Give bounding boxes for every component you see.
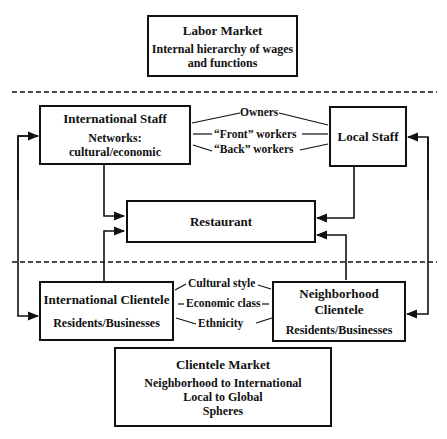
international-staff-box: International Staff Networks: cultural/e… [39,105,191,165]
labor-market-box: Labor Market Internal hierarchy of wages… [147,15,298,77]
clientele-market-title: Clientele Market [176,357,270,373]
restaurant-box: Restaurant [126,200,316,243]
international-clientele-line1: Residents/Businesses [53,316,160,330]
neighborhood-clientele-title-line1: Neighborhood [299,286,378,302]
staff-link-back-workers: “Back” workers [214,143,294,156]
neighborhood-clientele-box: Neighborhood Clientele Residents/Busines… [272,281,406,342]
international-staff-line1: Networks: [88,131,141,145]
staff-link-owners: Owners [240,106,278,119]
labor-market-title: Labor Market [183,23,263,39]
labor-market-line2: and functions [188,56,258,70]
neighborhood-clientele-title-line2: Clientele [314,302,363,318]
restaurant-title: Restaurant [190,214,252,230]
clientele-link-ethnicity: Ethnicity [198,317,243,330]
international-staff-line2: cultural/economic [69,145,161,159]
clientele-market-box: Clientele Market Neighborhood to Interna… [114,347,332,427]
international-clientele-title: International Clientele [43,292,169,308]
clientele-market-line2: Local to Global [183,390,262,404]
clientele-link-economic-class: Economic class [186,297,260,310]
labor-market-line1: Internal hierarchy of wages [152,42,293,56]
staff-link-front-workers: “Front” workers [214,128,297,141]
local-staff-title: Local Staff [337,129,398,145]
clientele-link-cultural-style: Cultural style [188,277,255,290]
neighborhood-clientele-line1: Residents/Businesses [286,323,393,337]
international-staff-title: International Staff [63,111,167,127]
clientele-market-line1: Neighborhood to International [144,376,301,390]
international-clientele-box: International Clientele Residents/Busine… [39,281,174,341]
local-staff-box: Local Staff [329,106,407,167]
clientele-market-line3: Spheres [203,404,243,418]
